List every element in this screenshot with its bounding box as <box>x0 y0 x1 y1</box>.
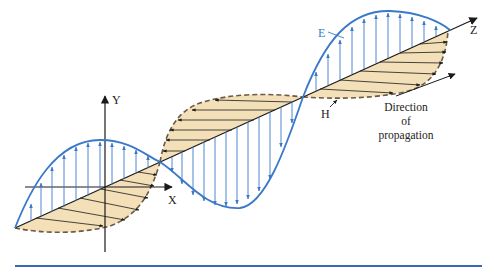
h-leader-line <box>330 100 337 107</box>
direction-of-propagation-label: Direction of propagation <box>361 100 451 142</box>
direction-line-3: propagation <box>361 128 451 142</box>
direction-line-1: Direction <box>361 100 451 114</box>
electric-field-label: E <box>318 27 325 39</box>
x-axis-label: X <box>168 194 177 206</box>
y-axis-label: Y <box>112 94 121 106</box>
magnetic-field-label: H <box>321 108 330 120</box>
direction-line-2: of <box>361 114 451 128</box>
bottom-rule <box>15 265 482 267</box>
z-axis-label: Z <box>470 24 477 36</box>
